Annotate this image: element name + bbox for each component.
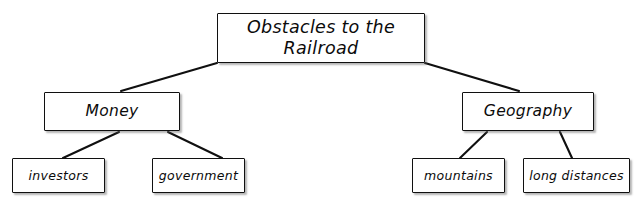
connector-root-to-money — [121, 63, 217, 91]
node-leaf-mountains-label: mountains — [420, 168, 497, 183]
node-root-label: Obstacles to the Railroad — [243, 17, 399, 60]
connector-geography-to-mountains — [460, 132, 487, 158]
node-leaf-government[interactable]: government — [152, 158, 245, 193]
node-leaf-investors[interactable]: investors — [12, 158, 105, 193]
node-leaf-mountains[interactable]: mountains — [412, 158, 505, 193]
node-leaf-long-distances-label: long distances — [525, 168, 628, 183]
node-branch-money[interactable]: Money — [44, 92, 180, 131]
node-leaf-investors-label: investors — [25, 168, 93, 183]
diagram-canvas: Obstacles to the Railroad Money Geograph… — [0, 0, 642, 213]
node-leaf-government-label: government — [155, 168, 242, 183]
connector-money-to-investors — [63, 132, 119, 158]
node-branch-geography-label: Geography — [480, 102, 576, 121]
node-branch-geography[interactable]: Geography — [462, 92, 594, 131]
connector-money-to-government — [168, 132, 222, 158]
node-leaf-long-distances[interactable]: long distances — [523, 158, 630, 193]
node-root-obstacles[interactable]: Obstacles to the Railroad — [217, 13, 425, 63]
connector-root-to-geography — [425, 63, 519, 91]
connector-geography-to-long-distances — [560, 132, 572, 158]
node-branch-money-label: Money — [82, 102, 143, 121]
